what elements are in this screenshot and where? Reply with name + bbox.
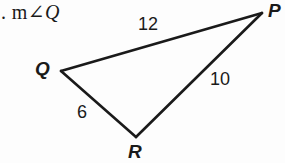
side-length-label-pr: 10	[210, 70, 230, 88]
vertex-label-q: Q	[35, 59, 50, 78]
problem-stem: . m∠Q	[1, 2, 60, 22]
angle-symbol-icon: ∠	[28, 1, 45, 23]
problem-stem-measure: m	[6, 1, 27, 23]
geometry-figure: . m∠Q P Q R 12 10 6	[0, 0, 285, 163]
side-length-label-qp: 12	[138, 15, 158, 33]
vertex-label-p: P	[268, 1, 281, 20]
problem-stem-vertex: Q	[45, 1, 60, 23]
vertex-label-r: R	[128, 142, 142, 161]
triangle-side-qr	[61, 71, 136, 137]
side-length-label-qr: 6	[77, 103, 87, 121]
